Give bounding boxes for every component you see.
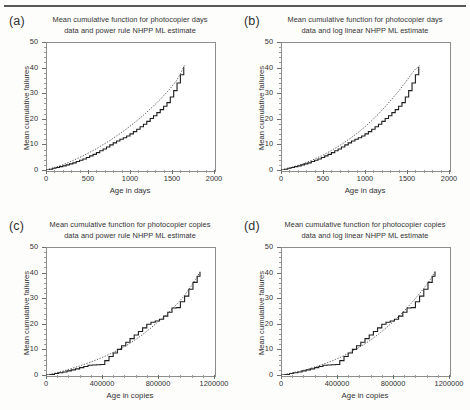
panel-a-ytick-label: 30 xyxy=(20,88,38,97)
panel-a-xlabel: Age in days xyxy=(46,186,214,195)
panel-c-xtick-minor xyxy=(80,375,81,378)
panel-b-ytick-label: 50 xyxy=(255,37,273,46)
panel-c-xlabel: Age in copies xyxy=(46,391,214,400)
panel-b-plot: Mean cumulative failures Age in days 010… xyxy=(235,0,470,205)
panel-a-xtick-minor xyxy=(155,170,156,173)
panel-b-xtick-label: 0 xyxy=(261,174,301,183)
panel-c-ytick-label: 40 xyxy=(20,268,38,277)
panel-a-xtick-label: 2000 xyxy=(194,174,234,183)
panel-a-xtick-minor xyxy=(206,170,207,173)
panel-b-ytick-label: 30 xyxy=(255,88,273,97)
panel-d-xtick-minor xyxy=(427,375,428,378)
figure-page: (a) Mean cumulative function for photoco… xyxy=(0,0,470,410)
panel-d-ytick-label: 50 xyxy=(255,242,273,251)
panel-d-xtick-minor xyxy=(303,375,304,378)
panel-c-xtick-minor xyxy=(91,375,92,378)
panel-d: (d) Mean cumulative function for photoco… xyxy=(235,205,470,410)
panel-d-curves xyxy=(281,247,449,375)
panel-c-curves xyxy=(46,247,214,375)
panel-b-xtick-label: 1000 xyxy=(345,174,385,183)
panel-b-xtick-minor xyxy=(424,170,425,173)
panel-d-xtick-label: 0 xyxy=(261,379,301,388)
panel-b-series-1 xyxy=(281,66,420,170)
panel-c-xtick-label: 800000 xyxy=(138,379,178,388)
panel-a-series-0 xyxy=(46,67,184,170)
panel-b-xtick-minor xyxy=(382,170,383,173)
panel-d-xtick-minor xyxy=(415,375,416,378)
panel-c-xtick-minor xyxy=(57,375,58,378)
panel-c-xtick-minor xyxy=(169,375,170,378)
panel-d-xtick-minor xyxy=(359,375,360,378)
panel-d-xtick-minor xyxy=(348,375,349,378)
panel-b-xtick-label: 1500 xyxy=(387,174,427,183)
panel-b-xtick-minor xyxy=(289,170,290,173)
panel-b-xtick-minor xyxy=(432,170,433,173)
panel-d-xtick-minor xyxy=(292,375,293,378)
panel-a-xtick-label: 1000 xyxy=(110,174,150,183)
panel-d-xtick-minor xyxy=(371,375,372,378)
panel-b-ytick-label: 40 xyxy=(255,63,273,72)
panel-d-xtick-minor xyxy=(382,375,383,378)
panel-a-xtick-minor xyxy=(71,170,72,173)
panel-a-ytick-label: 0 xyxy=(20,165,38,174)
panel-c-ylabel: Mean cumulative failures xyxy=(22,271,31,355)
panel-b-ylabel: Mean cumulative failures xyxy=(257,66,266,150)
panel-b-xtick-minor xyxy=(348,170,349,173)
panel-c-xtick-minor xyxy=(124,375,125,378)
panel-c-xtick-minor xyxy=(68,375,69,378)
panel-b-xtick-minor xyxy=(357,170,358,173)
panel-d-xlabel: Age in copies xyxy=(281,391,449,400)
panel-c-xtick-minor xyxy=(180,375,181,378)
panel-d-ytick-label: 40 xyxy=(255,268,273,277)
panel-a-xtick-minor xyxy=(138,170,139,173)
panel-c-series-1 xyxy=(46,272,200,375)
panel-b-xtick-minor xyxy=(441,170,442,173)
panel-b-xtick-minor xyxy=(390,170,391,173)
panel-d-xtick-minor xyxy=(315,375,316,378)
panel-a-xtick-minor xyxy=(63,170,64,173)
panel-d-xtick-minor xyxy=(438,375,439,378)
panel-a-xtick-minor xyxy=(180,170,181,173)
panel-a-ylabel: Mean cumulative failures xyxy=(22,66,31,150)
panel-b-xtick-minor xyxy=(373,170,374,173)
panel-d-series-1 xyxy=(281,271,435,375)
panel-c-xtick-label: 0 xyxy=(26,379,66,388)
panel-a-xtick-minor xyxy=(105,170,106,173)
panel-a-xtick-minor xyxy=(147,170,148,173)
panel-a-xtick-minor xyxy=(189,170,190,173)
panel-d-xtick-label: 1200000 xyxy=(429,379,469,388)
panel-c-ytick-label: 20 xyxy=(20,319,38,328)
panel-a-curves xyxy=(46,42,214,170)
panel-b-xtick-label: 2000 xyxy=(429,174,469,183)
panel-a-xtick-minor xyxy=(96,170,97,173)
panel-b-xtick-label: 500 xyxy=(303,174,343,183)
panel-c-xtick-minor xyxy=(147,375,148,378)
panel-a-xtick-minor xyxy=(197,170,198,173)
panel-d-ytick-label: 30 xyxy=(255,293,273,302)
panel-a-ytick-label: 50 xyxy=(20,37,38,46)
panel-b-xtick-minor xyxy=(415,170,416,173)
panel-b-ytick-label: 20 xyxy=(255,114,273,123)
panel-b-xtick-minor xyxy=(306,170,307,173)
panel-b-xtick-minor xyxy=(298,170,299,173)
panel-a-series-1 xyxy=(46,65,185,170)
panel-c-xtick-minor xyxy=(203,375,204,378)
panel-d-xtick-minor xyxy=(326,375,327,378)
panel-b: (b) Mean cumulative function for photoco… xyxy=(235,0,470,205)
panel-d-ytick-label: 20 xyxy=(255,319,273,328)
panel-c: (c) Mean cumulative function for photoco… xyxy=(0,205,235,410)
panel-d-series-0 xyxy=(281,272,435,375)
panel-d-ytick-label: 10 xyxy=(255,344,273,353)
panel-b-xtick-minor xyxy=(399,170,400,173)
panel-a-ytick-label: 20 xyxy=(20,114,38,123)
panel-b-series-0 xyxy=(281,67,419,170)
panel-a-xtick-minor xyxy=(80,170,81,173)
panel-b-ytick-label: 10 xyxy=(255,139,273,148)
panel-c-ytick-label: 30 xyxy=(20,293,38,302)
panel-d-xtick-minor xyxy=(404,375,405,378)
panel-a-xtick-minor xyxy=(113,170,114,173)
panel-b-ytick-label: 0 xyxy=(255,165,273,174)
panel-c-ytick-label: 0 xyxy=(20,370,38,379)
panel-d-ytick-label: 0 xyxy=(255,370,273,379)
panel-c-ytick-label: 10 xyxy=(20,344,38,353)
